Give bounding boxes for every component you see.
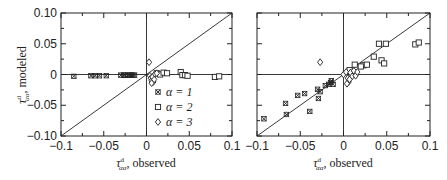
star-marker (156, 90, 161, 95)
square-marker (371, 54, 376, 59)
star-marker (307, 109, 312, 114)
star-marker (284, 112, 289, 117)
square-marker (358, 64, 363, 69)
square-marker (364, 62, 369, 67)
legend-entry-alpha1: α = 1 (156, 85, 193, 99)
square-marker (382, 61, 387, 66)
svg-text:α = 1: α = 1 (166, 85, 192, 99)
right-x-tick-labels: −0.1−0.0500.050.1 (245, 139, 439, 153)
y-tick-label: −0.05 (27, 98, 58, 112)
left-x-axis-label: τdαα, observed (116, 156, 175, 172)
square-marker (383, 41, 388, 46)
star-marker (302, 91, 307, 96)
y-tick-label: 0.05 (34, 37, 58, 51)
square-marker (185, 73, 190, 78)
figure: 0.100.050−0.05−0.10 −0.1−0.0500.050.1 τd… (0, 0, 447, 180)
left-y-tick-labels: 0.100.050−0.05−0.10 (27, 6, 58, 143)
x-tick-label: −0.05 (89, 139, 120, 153)
left-reference-lines (61, 13, 232, 136)
legend: α = 1 α = 2 α = 3 (155, 85, 192, 129)
square-marker (155, 104, 160, 109)
right-data-points (262, 40, 422, 121)
y-tick-label: 0 (50, 68, 57, 82)
square-marker (164, 71, 169, 76)
x-tick-label: 0.1 (224, 139, 241, 153)
x-tick-label: 0.05 (375, 139, 399, 153)
left-x-tick-labels: −0.1−0.0500.050.1 (49, 139, 241, 153)
x-tick-label: −0.1 (49, 139, 73, 153)
right-x-axis-label: τdαα, observed (313, 156, 372, 172)
legend-entry-alpha2: α = 2 (155, 100, 192, 114)
scatter-chart: 0.100.050−0.05−0.10 −0.1−0.0500.050.1 τd… (0, 0, 447, 180)
star-marker (295, 93, 300, 98)
x-tick-label: 0.1 (422, 139, 439, 153)
x-tick-label: −0.1 (245, 139, 269, 153)
square-marker (217, 74, 222, 79)
square-marker (376, 41, 381, 46)
legend-entry-alpha3: α = 3 (155, 115, 192, 129)
square-marker (416, 40, 421, 45)
y-tick-label: 0.10 (34, 6, 58, 20)
x-tick-label: 0 (143, 139, 150, 153)
diamond-marker (146, 59, 151, 66)
diamond-marker (155, 119, 160, 126)
y-axis-label: τdαα, modeled (15, 46, 31, 103)
svg-text:α = 3: α = 3 (166, 115, 192, 129)
square-marker (352, 62, 357, 67)
svg-text:α = 2: α = 2 (166, 100, 192, 114)
diamond-marker (318, 59, 323, 66)
x-tick-label: −0.05 (285, 139, 316, 153)
left-panel: 0.100.050−0.05−0.10 −0.1−0.0500.050.1 τd… (15, 6, 241, 172)
star-marker (262, 116, 267, 121)
star-marker (316, 96, 321, 101)
right-panel: −0.1−0.0500.050.1 τdαα, observed (245, 13, 439, 172)
star-marker (283, 101, 288, 106)
x-tick-label: 0 (340, 139, 347, 153)
x-tick-label: 0.05 (178, 139, 202, 153)
